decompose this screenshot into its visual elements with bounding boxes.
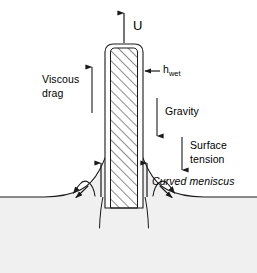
surface-tension-label-line1: Surface <box>190 139 227 151</box>
velocity-label: U <box>133 19 143 34</box>
withdrawn-plate <box>105 44 143 208</box>
diagram-canvas <box>0 0 257 273</box>
dip-coating-diagram: U hwet Viscous drag Gravity Surface tens… <box>0 0 257 273</box>
surface-tension-label-line2: tension <box>190 153 225 165</box>
film-thickness-subscript: wet <box>169 69 181 78</box>
viscous-drag-label-line1: Viscous <box>42 73 79 85</box>
gravity-label: Gravity <box>165 105 199 117</box>
film-thickness-label: hwet <box>163 63 181 79</box>
curved-meniscus-label: Curved meniscus <box>152 175 235 187</box>
viscous-drag-label-line2: drag <box>42 87 63 99</box>
